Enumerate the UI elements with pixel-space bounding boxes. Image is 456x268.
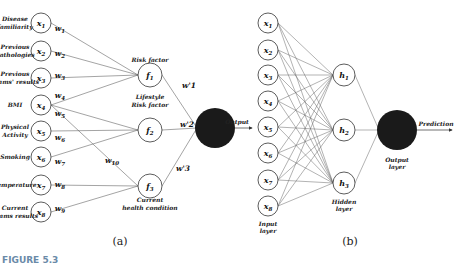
output-weight-label: w'3 [176, 164, 190, 173]
input-label: Smoking [0, 153, 30, 161]
edge [51, 130, 138, 157]
edge [278, 50, 333, 75]
edge [278, 75, 333, 130]
edge [278, 23, 333, 75]
input-label: Physical [0, 123, 30, 131]
edge [278, 23, 333, 183]
input-label: BMI [7, 101, 23, 108]
panel-b-mlp-network: x1x2x3x4x5x6x7x8h1h2h3PredictionInputlay… [258, 13, 454, 235]
weight-label: w4 [55, 91, 65, 101]
weight-label: w7 [55, 157, 65, 167]
edge [278, 50, 333, 130]
output-label: Output [225, 118, 249, 126]
weight-label: w1 [55, 24, 65, 34]
edge [278, 130, 333, 180]
output-layer-label: layer [389, 163, 406, 171]
weight-label: w3 [55, 71, 65, 81]
edge [278, 101, 333, 130]
hidden-layer-label: Hidden [331, 198, 357, 205]
factor-label: health condition [122, 204, 177, 211]
input-label: Disease [1, 15, 28, 22]
factor-label: Lifestyle [135, 93, 165, 101]
input-label: Previous [0, 43, 30, 50]
caption-b: (b) [342, 235, 358, 248]
output-weight-label: w'1 [182, 81, 196, 90]
input-label: familiarity [0, 23, 33, 31]
panel-a-factor-network: x1Diseasefamiliarityw1x2PreviousPatholog… [0, 13, 252, 222]
weight-label: w6 [55, 133, 65, 143]
edge [278, 101, 333, 183]
factor-label: Risk factor [131, 101, 170, 109]
prediction-label: Prediction [417, 120, 453, 127]
weight-label: w2 [55, 49, 65, 59]
edge [51, 130, 138, 131]
input-label: exams results [0, 212, 39, 219]
output-node [195, 108, 235, 148]
input-label: Pathologies [0, 51, 35, 59]
edge [278, 180, 333, 183]
input-label: Previous [0, 70, 30, 77]
input-label: Activity [1, 131, 28, 139]
figure-label: FIGURE 5.3 [2, 255, 58, 265]
input-label: exams' results [0, 78, 40, 85]
edge [278, 75, 333, 101]
output-weight-label: w'2 [180, 120, 194, 129]
input-label: Temperature [0, 181, 37, 189]
weight-label: w9 [55, 204, 65, 214]
weight-label: w8 [55, 180, 65, 190]
neural-network-figure: x1Diseasefamiliarityw1x2PreviousPatholog… [0, 0, 456, 268]
weight-label: w10 [105, 156, 119, 166]
edge [278, 50, 333, 183]
weight-label: w5 [55, 109, 65, 119]
edge [355, 75, 379, 130]
factor-label: Risk factor [131, 56, 170, 64]
edge [355, 130, 379, 183]
input-label: Current [2, 204, 29, 211]
output-layer-node [377, 110, 417, 150]
edge [162, 128, 197, 186]
edge [278, 75, 333, 127]
hidden-layer-label: layer [336, 205, 353, 213]
caption-a: (a) [112, 235, 127, 248]
factor-label: Current [137, 196, 164, 203]
input-layer-label: layer [260, 227, 277, 235]
